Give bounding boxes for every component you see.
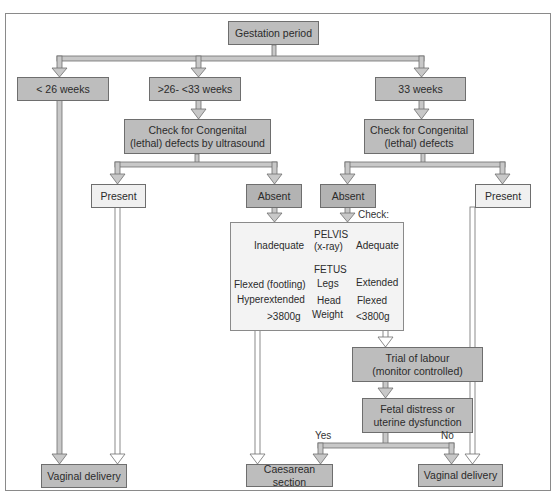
check-left-line1: Check for Congenital — [148, 124, 246, 137]
gte33-weeks-label: 33 weeks — [398, 83, 442, 96]
legs-left: Flexed (footling) — [234, 279, 306, 290]
head-middle: Head — [317, 295, 341, 306]
caesarean-label: Caesarean section — [247, 463, 332, 489]
gestation-period-label: Gestation period — [235, 27, 312, 40]
check-congenital-box: Check for Congenital (lethal) defects — [364, 119, 474, 154]
lt26-weeks-label: < 26 weeks — [36, 83, 89, 96]
no-label: No — [441, 430, 454, 441]
vaginal-left-label: Vaginal delivery — [47, 470, 120, 483]
absent-right-label: Absent — [332, 190, 365, 203]
legs-middle: Legs — [317, 278, 339, 289]
vaginal-right-label: Vaginal delivery — [424, 469, 497, 482]
present-left-label: Present — [100, 190, 136, 203]
absent-left-box: Absent — [246, 184, 302, 208]
mid-weeks-box: >26- <33 weeks — [149, 77, 241, 101]
check-congenital-ultrasound-box: Check for Congenital (lethal) defects by… — [124, 119, 271, 154]
connector-bus-top — [57, 56, 424, 61]
pelvis-header-2: (x-ray) — [314, 241, 343, 252]
present-right-box: Present — [475, 184, 531, 208]
trial-line1: Trial of labour — [386, 352, 450, 365]
gte33-weeks-box: 33 weeks — [375, 77, 466, 101]
weight-left: >3800g — [267, 311, 301, 322]
fetus-header: FETUS — [314, 264, 347, 275]
pelvis-header-1: PELVIS — [314, 229, 348, 240]
absent-right-box: Absent — [320, 184, 376, 208]
weight-right: <3800g — [356, 311, 390, 322]
yes-label: Yes — [315, 430, 331, 441]
head-left: Hyperextended — [237, 294, 305, 305]
absent-left-label: Absent — [258, 190, 291, 203]
present-left-box: Present — [91, 184, 146, 208]
trial-line2: (monitor controlled) — [372, 365, 462, 378]
caesarean-section-box: Caesarean section — [246, 464, 333, 487]
present-right-label: Present — [485, 190, 521, 203]
vaginal-delivery-right-box: Vaginal delivery — [418, 464, 503, 487]
connector-stem — [272, 45, 276, 57]
check-right-line1: Check for Congenital — [370, 124, 468, 137]
distress-line2: uterine dysfunction — [373, 416, 461, 429]
trial-of-labour-box: Trial of labour (monitor controlled) — [352, 347, 483, 382]
legs-right: Extended — [356, 277, 398, 288]
gestation-period-box: Gestation period — [228, 21, 319, 45]
pelvis-inadequate: Inadequate — [254, 240, 304, 251]
weight-middle: Weight — [312, 309, 343, 320]
check-left-line2: (lethal) defects by ultrasound — [130, 137, 265, 150]
fetal-distress-box: Fetal distress or uterine dysfunction — [362, 398, 473, 433]
check-panel: PELVIS (x-ray) Inadequate Adequate FETUS… — [230, 222, 404, 331]
vaginal-delivery-left-box: Vaginal delivery — [41, 464, 127, 488]
head-right: Flexed — [357, 295, 387, 306]
check-right-line2: (lethal) defects — [385, 137, 454, 150]
mid-weeks-label: >26- <33 weeks — [158, 83, 233, 96]
lt26-weeks-box: < 26 weeks — [17, 77, 109, 101]
distress-line1: Fetal distress or — [380, 403, 455, 416]
pelvis-adequate: Adequate — [356, 240, 399, 251]
check-label: Check: — [358, 209, 389, 220]
